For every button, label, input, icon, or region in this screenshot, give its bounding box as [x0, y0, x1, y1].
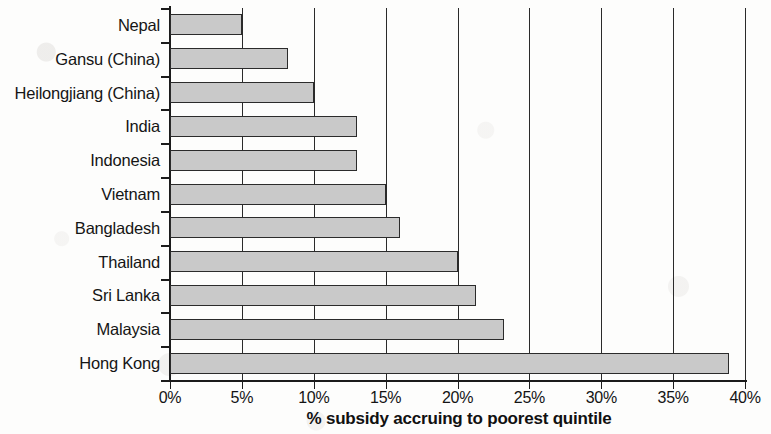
category-label: Vietnam	[101, 185, 160, 204]
category-label: Heilongjiang (China)	[15, 83, 161, 102]
bar	[170, 14, 242, 35]
category-label: Gansu (China)	[55, 49, 160, 68]
y-tick-mark	[161, 143, 170, 145]
category-label: Thailand	[98, 252, 160, 271]
bar	[170, 353, 729, 374]
x-tick-mark	[458, 382, 459, 389]
bar	[170, 217, 400, 238]
bars-group	[170, 8, 745, 380]
y-tick-mark	[161, 380, 170, 382]
bar	[170, 251, 458, 272]
y-tick-mark	[161, 8, 170, 10]
x-tick-mark	[745, 382, 746, 389]
bar-chart-figure: 0%5%10%15%20%25%30%35%40% NepalGansu (Ch…	[0, 0, 771, 434]
y-tick-mark	[161, 109, 170, 111]
x-tick-label: 40%	[729, 389, 760, 407]
x-tick-label: 25%	[514, 389, 545, 407]
gridline	[745, 8, 746, 380]
y-tick-mark	[161, 245, 170, 247]
x-tick-label: 10%	[298, 389, 329, 407]
x-tick-mark	[529, 382, 530, 389]
category-label: Indonesia	[90, 151, 160, 170]
y-tick-mark	[161, 177, 170, 179]
category-label: Malaysia	[96, 320, 160, 339]
x-tick-label: 0%	[159, 389, 182, 407]
y-tick-mark	[161, 211, 170, 213]
x-tick-label: 5%	[231, 389, 254, 407]
category-label: Bangladesh	[75, 218, 160, 237]
x-tick-label: 15%	[370, 389, 401, 407]
x-tick-mark	[170, 382, 171, 389]
x-tick-label: 30%	[586, 389, 617, 407]
x-tick-label: 20%	[442, 389, 473, 407]
y-tick-mark	[161, 312, 170, 314]
bar	[170, 285, 476, 306]
x-axis-title: % subsidy accruing to poorest quintile	[170, 409, 748, 429]
category-label: India	[125, 117, 160, 136]
y-tick-mark	[161, 346, 170, 348]
y-tick-mark	[161, 76, 170, 78]
bar	[170, 116, 357, 137]
bar	[170, 319, 504, 340]
x-tick-mark	[242, 382, 243, 389]
x-tick-label: 35%	[658, 389, 689, 407]
bar	[170, 48, 288, 69]
category-label: Hong Kong	[79, 354, 160, 373]
y-tick-mark	[161, 279, 170, 281]
bar	[170, 150, 357, 171]
category-label: Nepal	[118, 15, 160, 34]
category-label: Sri Lanka	[92, 286, 160, 305]
x-tick-mark	[673, 382, 674, 389]
bar	[170, 82, 314, 103]
x-tick-mark	[386, 382, 387, 389]
bar	[170, 184, 386, 205]
x-tick-mark	[314, 382, 315, 389]
x-tick-mark	[601, 382, 602, 389]
y-tick-mark	[161, 42, 170, 44]
